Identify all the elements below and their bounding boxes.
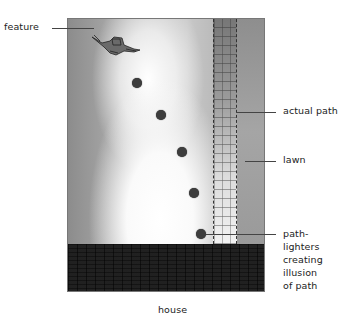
house-wall [68, 244, 265, 292]
lawn-strip [237, 19, 265, 244]
lawn-leader [245, 161, 276, 162]
feature-sculpture-icon [90, 33, 142, 59]
path-lighter-dot [156, 110, 166, 120]
label-path-lighters: path- lighters creating illusion of path [283, 227, 323, 292]
stone-texture [214, 19, 236, 244]
label-house: house [158, 303, 187, 316]
path-lighter-dot [132, 78, 142, 88]
actual-path-leader [236, 112, 276, 113]
label-feature: feature [4, 20, 39, 33]
feature-leader [52, 28, 94, 29]
label-actual-path: actual path [283, 104, 338, 117]
lighters-leader [206, 234, 276, 235]
path-lighter-dot [196, 229, 206, 239]
garden-plan [67, 18, 265, 292]
path-lighter-dot [189, 188, 199, 198]
label-lawn: lawn [283, 153, 306, 166]
path-lighter-dot [177, 147, 187, 157]
stone-path [213, 19, 237, 244]
